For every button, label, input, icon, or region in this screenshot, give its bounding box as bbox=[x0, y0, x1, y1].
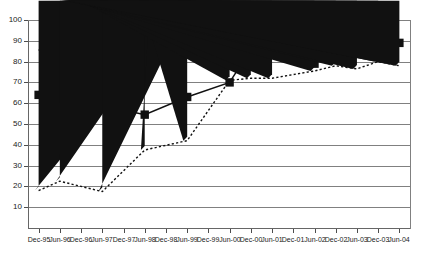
series-triangle bbox=[35, 0, 400, 191]
data-series-layer bbox=[0, 0, 428, 257]
chart-container: 100908070605040302010 Dec-95Jun-96Dec-96… bbox=[0, 0, 428, 257]
